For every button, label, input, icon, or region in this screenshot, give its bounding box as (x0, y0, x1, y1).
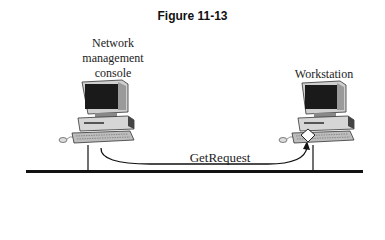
workstation-computer-icon (279, 81, 354, 143)
getrequest-label: GetRequest (180, 150, 260, 165)
console-computer-icon (59, 80, 134, 143)
